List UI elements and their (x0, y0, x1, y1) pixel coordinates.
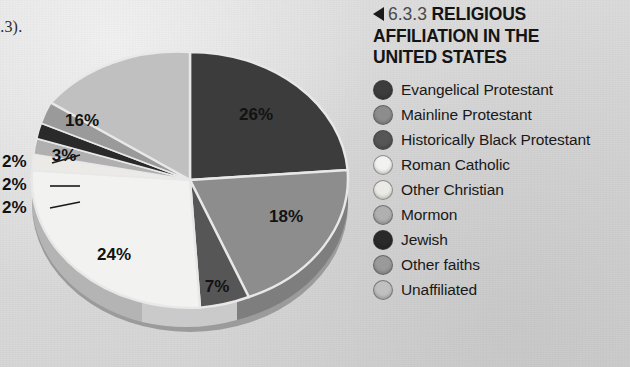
legend-swatch-icon (373, 130, 393, 150)
left-triangle-icon (373, 7, 384, 21)
legend-item-label: Historically Black Protestant (401, 131, 590, 149)
figure-title-line2: AFFILIATION IN THE (373, 26, 539, 46)
pie-slices (32, 52, 348, 308)
pie-chart: 26% 18% 7% 24% 16% 3% (22, 28, 374, 350)
legend-swatch-icon (373, 80, 393, 100)
legend-swatch-icon (373, 180, 393, 200)
legend-swatch-icon (373, 155, 393, 175)
legend-swatch-icon (373, 230, 393, 250)
legend-panel: 6.3.3 RELIGIOUS AFFILIATION IN THE UNITE… (373, 4, 627, 303)
body-text-fragment: 3.3). (0, 18, 22, 36)
legend-item-label: Mormon (401, 206, 457, 224)
pie-label-historically-black-protestant: 7% (205, 277, 230, 296)
legend-item-evangelical-protestant: Evangelical Protestant (373, 78, 627, 103)
legend-item-label: Unaffiliated (401, 281, 477, 299)
legend-item-mainline-protestant: Mainline Protestant (373, 103, 627, 128)
legend-item-unaffiliated: Unaffiliated (373, 278, 627, 303)
legend-item-roman-catholic: Roman Catholic (373, 153, 627, 178)
legend-swatch-icon (373, 280, 393, 300)
pie-label-jewish: 2% (2, 152, 27, 172)
legend-item-label: Other Christian (401, 181, 504, 199)
pie-slice-roman-catholic (32, 170, 200, 307)
figure-title-line1: RELIGIOUS (432, 4, 526, 24)
legend-item-label: Jewish (401, 231, 448, 249)
legend-item-other-faiths: Other faiths (373, 253, 627, 278)
legend-swatch-icon (373, 205, 393, 225)
figure-number: 6.3.3 (388, 4, 427, 24)
legend-item-label: Mainline Protestant (401, 106, 532, 124)
legend-item-jewish: Jewish (373, 228, 627, 253)
pie-label-mormon: 2% (2, 175, 27, 195)
legend-item-label: Other faiths (401, 256, 480, 274)
pie-label-other-christian: 2% (2, 198, 27, 218)
pie-label-mainline-protestant: 18% (269, 207, 303, 226)
figure-title-line3: UNITED STATES (373, 47, 507, 67)
legend-swatch-icon (373, 105, 393, 125)
pie-label-unaffiliated: 16% (65, 111, 99, 130)
pie-label-evangelical-protestant: 26% (239, 105, 273, 124)
legend-item-label: Roman Catholic (401, 156, 510, 174)
legend-item-label: Evangelical Protestant (401, 81, 553, 99)
legend-items: Evangelical Protestant Mainline Protesta… (373, 78, 627, 303)
legend-item-historically-black-protestant: Historically Black Protestant (373, 128, 627, 153)
pie-label-roman-catholic: 24% (97, 245, 131, 264)
legend-item-mormon: Mormon (373, 203, 627, 228)
legend-swatch-icon (373, 255, 393, 275)
legend-item-other-christian: Other Christian (373, 178, 627, 203)
figure-title: 6.3.3 RELIGIOUS AFFILIATION IN THE UNITE… (373, 4, 627, 69)
